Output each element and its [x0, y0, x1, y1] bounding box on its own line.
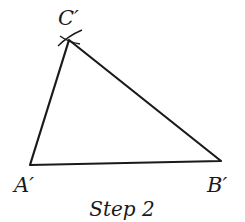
triangle-a-b-c — [30, 40, 221, 165]
step-caption: Step 2 — [89, 197, 154, 221]
label-b-prime: B′ — [206, 173, 227, 197]
label-c-prime: C′ — [58, 6, 79, 30]
triangle-diagram: C′ A′ B′ Step 2 — [0, 0, 245, 222]
compass-arc-marks — [58, 30, 82, 46]
label-a-prime: A′ — [12, 173, 34, 197]
